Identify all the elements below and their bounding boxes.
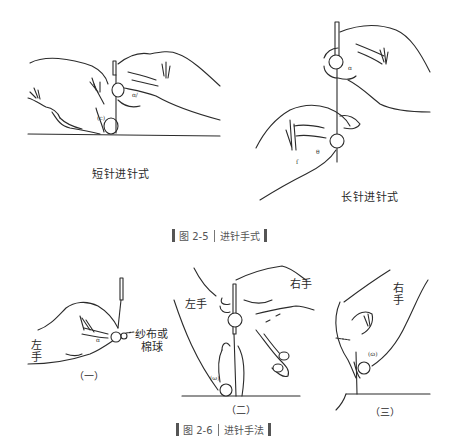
- figure-2-6-title: 图 2-6 进针手法: [176, 422, 271, 437]
- panel-2-left-hand-label: 左手: [185, 295, 207, 311]
- svg-text:θ: θ: [316, 148, 320, 155]
- panel-3-illustration: (ɷ): [310, 250, 452, 400]
- svg-text:ɑ: ɑ: [96, 336, 100, 343]
- title-separator: [218, 424, 219, 436]
- figure-number: 图 2-6: [183, 422, 213, 437]
- long-needle-insertion-illustration: ɑ θ ſ: [220, 0, 452, 215]
- svg-text:(ɷ): (ɷ): [368, 350, 378, 357]
- panel-2-right-hand-label: 右手: [290, 275, 312, 291]
- svg-text:(c): (c): [97, 114, 105, 121]
- panel-3-index: （三）: [370, 404, 400, 419]
- panel-1-illustration: ɑ: [0, 250, 170, 380]
- svg-text:ɑ/: ɑ/: [132, 91, 139, 98]
- short-needle-insertion-illustration: (c) ɑ/: [0, 0, 230, 160]
- title-left-bar: [176, 423, 179, 436]
- figure-2-5-title: 图 2-5 进针手式: [172, 228, 267, 243]
- svg-text:(ω): (ω): [210, 374, 220, 381]
- svg-text:ſ: ſ: [296, 158, 299, 165]
- title-right-bar: [268, 423, 271, 436]
- panel-1-index: （一）: [74, 368, 104, 383]
- panel-3-right-hand-label: 右 手: [392, 283, 404, 307]
- title-left-bar: [172, 229, 175, 242]
- svg-text:ɑ: ɑ: [348, 64, 352, 71]
- figure-title-text: 进针手法: [224, 422, 264, 437]
- figure-number: 图 2-5: [179, 228, 209, 243]
- short-needle-caption: 短针进针式: [92, 165, 150, 181]
- panel-2-index: （二）: [226, 402, 256, 417]
- long-needle-caption: 长针进针式: [341, 188, 399, 204]
- panel-1-left-hand-label: 左 手: [30, 340, 42, 364]
- title-right-bar: [264, 229, 267, 242]
- title-separator: [214, 230, 215, 242]
- figure-title-text: 进针手式: [220, 228, 260, 243]
- panel-2-illustration: (ω): [160, 250, 320, 410]
